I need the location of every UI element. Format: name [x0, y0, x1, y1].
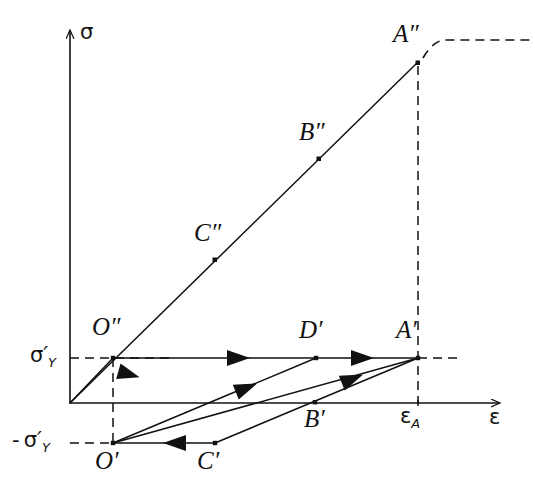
tick-label-sigma-yield-negative: - σ′Y — [12, 430, 50, 454]
point-markers — [111, 61, 420, 446]
dashed-saturation-top — [423, 40, 530, 58]
point-dot-Cdoubleprime — [213, 258, 218, 263]
point-dot-Dprime — [314, 356, 318, 360]
tick-epsilon-symbol: ε — [400, 404, 411, 428]
arrow-marker-plateau-1 — [227, 350, 250, 366]
point-dot-Cprime — [213, 441, 217, 445]
point-label-C-prime: C′ — [197, 448, 219, 473]
curve-Aprime-to-Oprime — [113, 358, 418, 443]
stress-strain-diagram: σ ε O″ O′ A″ A′ B″ B′ C″ C′ D′ σ′Y - σ′Y… — [0, 0, 535, 493]
point-label-B-double-prime: B″ — [299, 119, 325, 144]
tick-sigma-symbol-neg: σ — [24, 428, 37, 452]
tick-label-epsilon-A: εA — [400, 406, 420, 430]
point-dot-Bdoubleprime — [317, 157, 322, 162]
curve-O-to-Odoubleprime — [70, 358, 113, 403]
point-label-A-prime: A′ — [396, 317, 417, 342]
point-dot-Adoubleprime — [416, 61, 421, 66]
point-dot-Oprime — [111, 441, 115, 445]
point-label-A-double-prime: A″ — [393, 21, 419, 46]
axis-group — [70, 30, 500, 403]
point-label-B-prime: B′ — [304, 406, 325, 431]
arrow-marker-plateau-2 — [351, 350, 374, 366]
curve-elastic-envelope — [70, 63, 417, 403]
point-dot-Aprime — [416, 356, 420, 360]
tick-label-sigma-yield-positive: σ′Y — [30, 345, 56, 369]
plot-canvas — [0, 0, 535, 493]
tick-sigma-subscript-pos: Y — [48, 355, 56, 370]
arrow-marker-bottom-left — [163, 435, 186, 451]
construction-lines — [70, 40, 530, 443]
direction-arrows — [116, 350, 374, 451]
tick-sigma-subscript-neg: Y — [42, 440, 50, 455]
tick-epsilon-subscript: A — [411, 416, 420, 431]
epsilon-axis-label: ε — [489, 407, 500, 428]
point-dot-Odoubleprime — [111, 356, 115, 360]
point-label-O-prime: O′ — [95, 448, 119, 473]
curve-Oprime-to-Dprime — [113, 358, 316, 443]
sigma-axis-label: σ — [80, 22, 93, 43]
point-label-C-double-prime: C″ — [194, 220, 221, 245]
point-label-D-prime: D′ — [299, 317, 323, 342]
point-label-O-double-prime: O″ — [92, 314, 120, 339]
tick-sigma-sign-neg: - — [12, 428, 24, 452]
arrow-marker-reload-upper — [339, 367, 366, 390]
arrow-marker-unload-start — [116, 364, 142, 385]
point-dot-Bprime — [313, 400, 317, 404]
tick-sigma-symbol-pos: σ — [30, 343, 43, 367]
arrow-marker-reload-lower — [233, 376, 260, 399]
